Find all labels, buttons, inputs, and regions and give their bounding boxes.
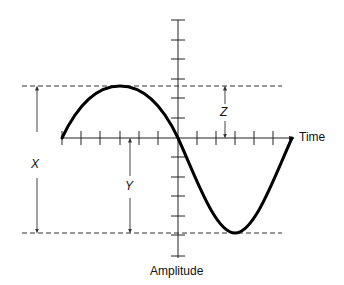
sine-wave-diagram: [0, 0, 344, 285]
time-axis-label: Time: [299, 131, 325, 143]
sine-curve: [62, 86, 292, 233]
x-label: X: [31, 158, 39, 170]
amplitude-axis-label: Amplitude: [150, 265, 203, 277]
y-label: Y: [125, 180, 133, 192]
z-label: Z: [220, 106, 227, 118]
